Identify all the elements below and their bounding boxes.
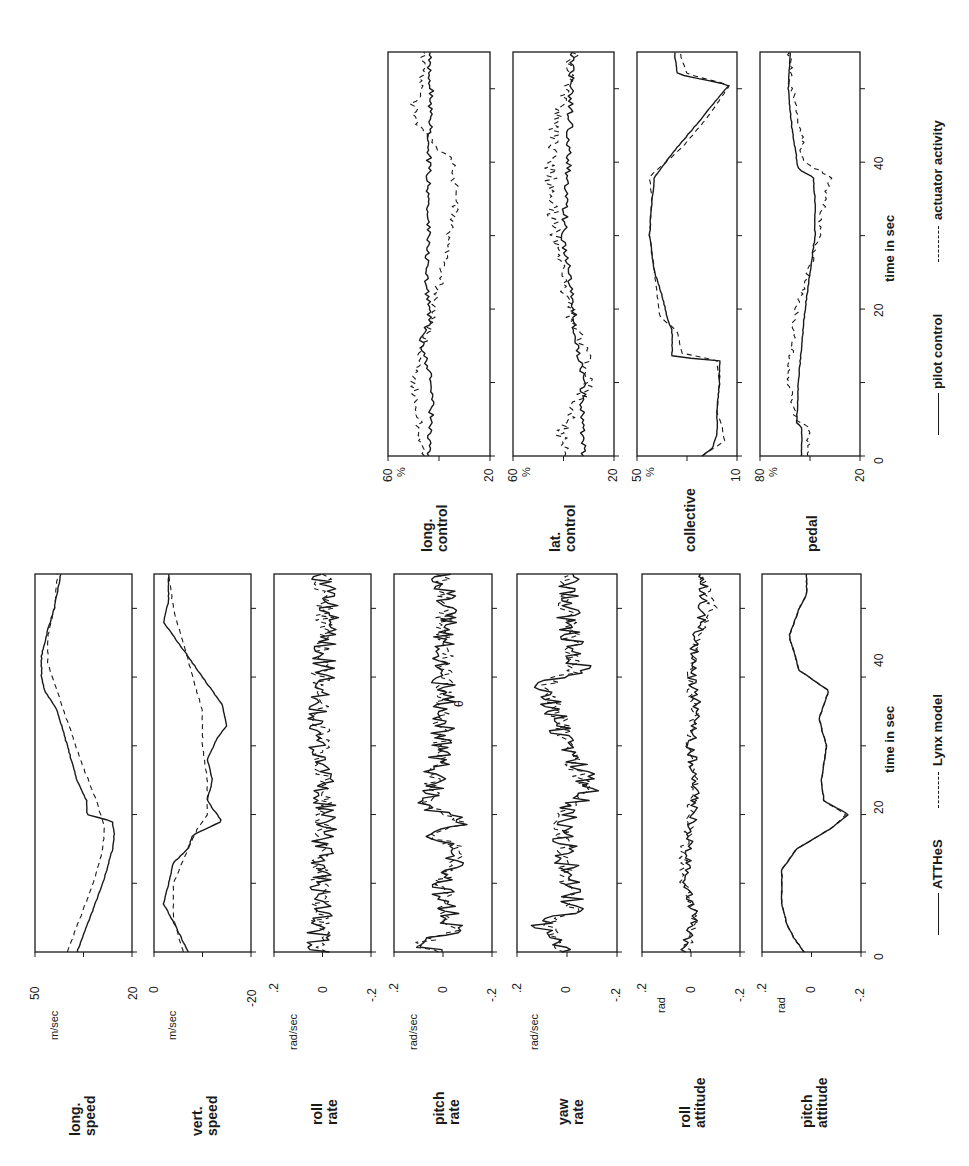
tick-label: 60 — [506, 469, 520, 482]
pitch-rate-annotation: θ — [452, 700, 466, 707]
panel-roll-rate — [274, 574, 376, 957]
dashed-line-icon — [938, 772, 939, 808]
unit-collective: % — [644, 467, 656, 477]
tick-label: 0 — [316, 986, 330, 993]
panel-label-pitch-attitude: pitchattitude — [800, 1077, 830, 1128]
unit-long-control: % — [395, 467, 407, 477]
legend-label: pilot control — [930, 314, 945, 389]
time-tick-label: 40 — [872, 654, 886, 667]
panel-label-collective: collective — [683, 488, 698, 552]
time-tick-label: 0 — [872, 953, 886, 960]
tick-label: .2 — [635, 983, 649, 993]
tick-label: .2 — [387, 983, 401, 993]
dashed-series-line — [48, 574, 105, 952]
tick-label: 0 — [436, 986, 450, 993]
figure: long.speed vert.speed rollrate pitchrate… — [0, 0, 969, 1166]
tick-label: 0 — [147, 986, 161, 993]
panel-long-speed — [35, 574, 137, 957]
tick-label: 80 — [753, 469, 767, 482]
panel-pedal — [760, 52, 865, 461]
solid-line-icon — [938, 893, 939, 935]
solid-series-line — [649, 52, 728, 456]
dashed-series-line — [168, 574, 207, 952]
unit-lat-control: % — [520, 467, 532, 477]
solid-series-line — [681, 574, 708, 952]
panel-roll-attitude — [642, 574, 745, 957]
time-tick-label: 40 — [872, 157, 886, 170]
panel-lat-control — [513, 52, 619, 461]
panel-label-roll-attitude: rollattitude — [678, 1077, 708, 1128]
dashed-line-icon — [938, 226, 939, 262]
solid-series-line — [307, 574, 338, 952]
unit-roll-rate: rad/sec — [287, 1014, 299, 1050]
unit-pedal: % — [767, 467, 779, 477]
tick-label: 20 — [126, 987, 140, 1000]
dashed-series-line — [781, 574, 845, 952]
legend-label: ATTHeS — [930, 839, 945, 889]
tick-label: 10 — [729, 469, 743, 482]
tick-label: -.2 — [733, 988, 747, 1002]
tick-label: 0 — [804, 986, 818, 993]
unit-long-speed: m/sec — [48, 1011, 60, 1040]
tick-label: 60 — [381, 469, 395, 482]
panel-label-lat-control: lat.control — [548, 505, 578, 552]
solid-line-icon — [938, 393, 939, 435]
tick-label: -.2 — [485, 988, 499, 1002]
solid-series-line — [420, 52, 434, 456]
solid-series-line — [561, 52, 585, 456]
legend-label: Lynx model — [930, 694, 945, 766]
legend-item-pilot-control: pilot control — [930, 314, 945, 435]
tick-label: 0 — [559, 986, 573, 993]
panel-label-vert-speed: vert.speed — [190, 1096, 220, 1136]
panel-vert-speed — [154, 574, 256, 957]
time-axis-title: time in sec — [882, 215, 897, 282]
dashed-series-line — [410, 52, 459, 456]
tick-label: .2 — [510, 983, 524, 993]
dashed-series-line — [649, 52, 729, 456]
panel-label-yaw-rate: yawrate — [556, 1099, 586, 1125]
panel-long-control — [388, 52, 495, 461]
panel-label-long-control: long.control — [420, 505, 450, 552]
unit-yaw-rate: rad/sec — [528, 1014, 540, 1050]
tick-label: -.2 — [609, 988, 623, 1002]
solid-series-line — [41, 574, 114, 952]
panel-label-pitch-rate: pitchrate — [432, 1092, 462, 1125]
tick-label: 20 — [853, 469, 867, 482]
unit-pitch-attitude: rad — [775, 997, 787, 1013]
time-tick-label: 20 — [872, 801, 886, 814]
panel-pitch-attitude — [762, 574, 866, 957]
legend-item-lynx-model: Lynx model — [930, 694, 945, 808]
legend-item-atthes: ATTHeS — [930, 839, 945, 935]
tick-label: 0 — [684, 986, 698, 993]
tick-label: 50 — [630, 469, 644, 482]
panel-yaw-rate — [517, 574, 622, 957]
panel-label-long-speed: long.speed — [68, 1096, 98, 1136]
time-tick-label: 20 — [872, 304, 886, 317]
legend-label: actuator activity — [930, 120, 945, 220]
panel-pitch-rate — [394, 574, 497, 957]
time-axis-title: time in sec — [882, 706, 897, 773]
tick-label: 50 — [28, 987, 42, 1000]
unit-roll-attitude: rad — [655, 997, 667, 1013]
tick-label: 20 — [482, 469, 496, 482]
tick-label: -.2 — [853, 988, 867, 1002]
legend-item-actuator-activity: actuator activity — [930, 120, 945, 262]
solid-series-line — [532, 574, 599, 952]
unit-vert-speed: m/sec — [166, 1011, 178, 1040]
tick-label: -20 — [245, 990, 259, 1007]
tick-label: -.2 — [365, 988, 379, 1002]
panel-label-roll-rate: rollrate — [310, 1099, 340, 1125]
time-tick-label: 0 — [872, 457, 886, 464]
tick-label: 20 — [606, 469, 620, 482]
panel-label-pedal: pedal — [805, 515, 820, 552]
tick-label: .2 — [755, 983, 769, 993]
panel-collective — [637, 52, 742, 461]
tick-label: .2 — [267, 983, 281, 993]
unit-pitch-rate: rad/sec — [407, 1014, 419, 1050]
dashed-series-line — [787, 52, 832, 456]
